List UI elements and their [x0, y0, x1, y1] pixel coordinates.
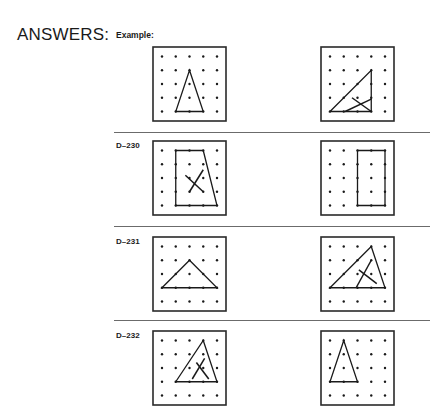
peg-dot — [370, 273, 372, 275]
peg-dot — [370, 163, 372, 165]
peg-dot — [384, 381, 386, 383]
row-divider — [114, 320, 430, 321]
peg-dot — [188, 300, 190, 302]
peg-dot — [329, 191, 331, 193]
peg-dot — [384, 69, 386, 71]
peg-dot — [370, 339, 372, 341]
peg-dot — [202, 259, 204, 261]
peg-dot — [161, 300, 163, 302]
cross-mark — [196, 363, 208, 380]
peg-dot — [356, 97, 358, 99]
peg-dot — [188, 83, 190, 85]
peg-dot — [188, 394, 190, 396]
peg-dot — [329, 367, 331, 369]
peg-dot — [202, 177, 204, 179]
peg-dot — [161, 177, 163, 179]
problem-label: D–232 — [116, 331, 140, 340]
peg-dot — [370, 191, 372, 193]
peg-dot — [216, 110, 218, 112]
peg-dot — [343, 149, 345, 151]
peg-dot — [384, 245, 386, 247]
peg-dot — [216, 394, 218, 396]
peg-dot — [356, 394, 358, 396]
peg-dot — [161, 69, 163, 71]
peg-dot — [161, 191, 163, 193]
peg-dot — [175, 339, 177, 341]
peg-dot — [175, 367, 177, 369]
cross-mark — [185, 175, 203, 192]
peg-dot — [161, 163, 163, 165]
peg-dot — [216, 83, 218, 85]
rubber-band-shape — [330, 70, 371, 111]
peg-dot — [161, 149, 163, 151]
peg-dot — [356, 55, 358, 57]
peg-dot — [202, 245, 204, 247]
peg-dot — [175, 97, 177, 99]
peg-dot — [216, 339, 218, 341]
peg-dot — [161, 273, 163, 275]
peg-dot — [161, 245, 163, 247]
peg-dot — [384, 300, 386, 302]
peg-dot — [161, 55, 163, 57]
rubber-band-shape — [330, 341, 358, 382]
peg-dot — [343, 353, 345, 355]
peg-dot — [216, 367, 218, 369]
peg-dot — [216, 273, 218, 275]
peg-dot — [343, 177, 345, 179]
peg-dot — [161, 259, 163, 261]
peg-dot — [161, 353, 163, 355]
peg-dot — [329, 259, 331, 261]
peg-dot — [202, 367, 204, 369]
peg-dot — [161, 110, 163, 112]
peg-dot — [216, 353, 218, 355]
geoboard-left — [152, 236, 227, 312]
geoboard-right — [320, 236, 395, 312]
rubber-band-shape — [176, 70, 204, 111]
peg-dot — [161, 394, 163, 396]
cross-mark — [345, 99, 371, 111]
peg-dot — [188, 353, 190, 355]
peg-dot — [161, 204, 163, 206]
peg-dot — [384, 339, 386, 341]
peg-dot — [161, 83, 163, 85]
peg-dot — [343, 204, 345, 206]
peg-dot — [356, 300, 358, 302]
peg-dot — [370, 367, 372, 369]
peg-dot — [175, 394, 177, 396]
peg-dot — [188, 339, 190, 341]
peg-dot — [329, 149, 331, 151]
peg-dot — [329, 245, 331, 247]
peg-dot — [356, 245, 358, 247]
peg-dot — [216, 300, 218, 302]
peg-dot — [216, 177, 218, 179]
peg-dot — [356, 273, 358, 275]
peg-dot — [188, 55, 190, 57]
rubber-band-shape — [176, 341, 217, 382]
peg-dot — [175, 83, 177, 85]
peg-dot — [384, 97, 386, 99]
rubber-band-shape — [176, 151, 217, 206]
peg-dot — [175, 245, 177, 247]
problem-label: D–230 — [116, 141, 140, 150]
peg-dot — [188, 245, 190, 247]
peg-dot — [202, 83, 204, 85]
peg-dot — [343, 394, 345, 396]
peg-dot — [202, 300, 204, 302]
row-divider — [114, 226, 430, 227]
peg-dot — [343, 300, 345, 302]
peg-dot — [384, 83, 386, 85]
peg-dot — [356, 339, 358, 341]
peg-dot — [216, 149, 218, 151]
peg-dot — [202, 55, 204, 57]
answers-title: ANSWERS: — [17, 25, 109, 45]
row-divider — [114, 132, 430, 133]
peg-dot — [202, 353, 204, 355]
peg-dot — [329, 83, 331, 85]
peg-dot — [343, 55, 345, 57]
rubber-band-shape — [330, 247, 385, 288]
peg-dot — [202, 163, 204, 165]
peg-dot — [329, 300, 331, 302]
peg-dot — [188, 367, 190, 369]
peg-dot — [329, 55, 331, 57]
peg-dot — [188, 163, 190, 165]
